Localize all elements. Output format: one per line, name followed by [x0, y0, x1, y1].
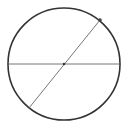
center-point — [63, 63, 65, 65]
diagram-canvas — [0, 0, 126, 124]
circle-diagram — [0, 0, 126, 124]
endpoint-dot — [98, 18, 102, 22]
